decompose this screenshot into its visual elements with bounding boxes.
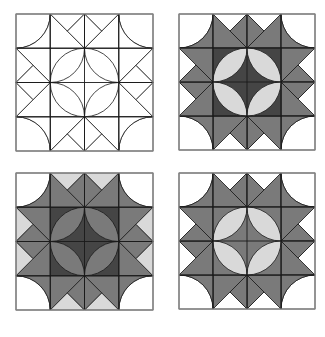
block-shaded-3 [179, 173, 315, 309]
block-shaded-2 [16, 173, 153, 310]
block-shaded-1 [179, 14, 315, 150]
block-outline [16, 14, 153, 151]
